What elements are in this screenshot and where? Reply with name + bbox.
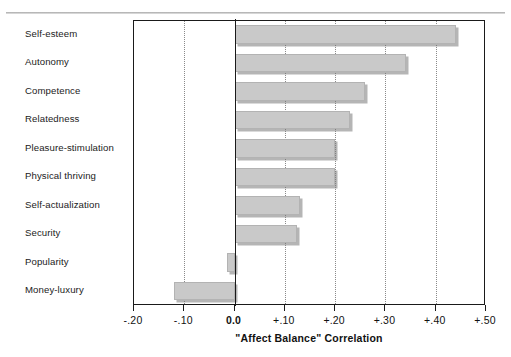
plot-area: [133, 20, 485, 305]
bar-row: [134, 282, 484, 301]
x-tick: [183, 305, 184, 311]
x-tick-label: +.10: [273, 314, 295, 326]
category-label: Relatedness: [0, 113, 126, 124]
x-tick: [334, 305, 335, 311]
bar: [235, 139, 336, 158]
category-label: Security: [0, 227, 126, 238]
category-label: Money-luxury: [0, 284, 126, 295]
x-tick: [384, 305, 385, 311]
x-tick-label: +.30: [374, 314, 396, 326]
bar: [235, 54, 406, 73]
category-label: Pleasure-stimulation: [0, 142, 126, 153]
x-axis: -.20-.100.0+.10+.20+.30+.40+.50: [133, 305, 485, 335]
bar-row: [134, 111, 484, 130]
x-axis-title: "Affect Balance" Correlation: [133, 332, 485, 344]
category-label: Self-actualization: [0, 199, 126, 210]
x-tick-label: 0.0: [226, 314, 241, 326]
x-tick-label: -.10: [174, 314, 193, 326]
bar-row: [134, 225, 484, 244]
category-label: Competence: [0, 85, 126, 96]
bar: [235, 111, 351, 130]
bar-row: [134, 82, 484, 101]
bar: [235, 225, 298, 244]
x-tick-label: +.50: [474, 314, 496, 326]
plot-inner: [134, 21, 484, 304]
bar-row: [134, 168, 484, 187]
header-rule: [6, 12, 505, 14]
bar: [174, 282, 234, 301]
bar: [235, 82, 366, 101]
figure-container: Self-esteemAutonomyCompetenceRelatedness…: [0, 0, 511, 357]
bar: [235, 25, 456, 44]
category-label: Physical thriving: [0, 170, 126, 181]
bar-row: [134, 196, 484, 215]
bar: [235, 168, 336, 187]
bar: [235, 196, 300, 215]
bar: [227, 253, 235, 272]
bar-row: [134, 25, 484, 44]
x-tick: [485, 305, 486, 311]
x-tick-label: +.20: [323, 314, 345, 326]
x-tick-label: +.40: [424, 314, 446, 326]
category-axis-labels: Self-esteemAutonomyCompetenceRelatedness…: [0, 20, 128, 305]
x-tick: [435, 305, 436, 311]
x-tick: [284, 305, 285, 311]
x-tick: [133, 305, 134, 311]
zero-line: [235, 19, 236, 306]
x-tick-label: -.20: [124, 314, 143, 326]
bar-row: [134, 54, 484, 73]
category-label: Autonomy: [0, 56, 126, 67]
category-label: Popularity: [0, 256, 126, 267]
category-label: Self-esteem: [0, 28, 126, 39]
bar-row: [134, 253, 484, 272]
x-tick: [234, 305, 235, 311]
bar-row: [134, 139, 484, 158]
